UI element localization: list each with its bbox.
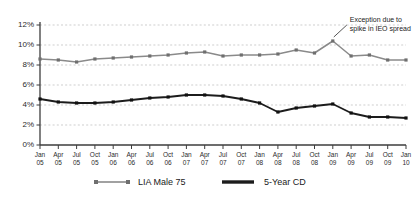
x-label-year: 09 bbox=[329, 159, 337, 166]
x-label-year: 07 bbox=[201, 159, 209, 166]
data-point-lia-male-75-18 bbox=[368, 53, 371, 56]
data-point-lia-male-75-8 bbox=[185, 51, 188, 54]
data-point-lia-male-75-16 bbox=[331, 39, 334, 42]
data-point-5-year-cd-12 bbox=[258, 101, 261, 104]
data-point-lia-male-75-9 bbox=[203, 50, 206, 53]
annotation-text-exception-note: Exception due tospike in IEO spread bbox=[350, 16, 411, 33]
x-label-year: 08 bbox=[293, 159, 301, 166]
x-axis-label-Jan-10: Jan10 bbox=[401, 151, 412, 166]
y-axis-label-0%: 0% bbox=[22, 140, 34, 149]
x-label-month: Jan bbox=[328, 151, 339, 158]
data-point-5-year-cd-3 bbox=[93, 101, 96, 104]
y-axis-label-12%: 12% bbox=[18, 20, 34, 29]
x-label-month: Jan bbox=[108, 151, 119, 158]
x-label-month: Apr bbox=[53, 151, 64, 159]
x-axis-label-Jul-06: Jul06 bbox=[146, 151, 155, 166]
annotation-line-1: spike in IEO spread bbox=[350, 25, 411, 33]
x-label-month: Jul bbox=[219, 151, 228, 158]
x-axis-label-Jan-06: Jan06 bbox=[108, 151, 119, 166]
data-point-lia-male-75-19 bbox=[386, 58, 389, 61]
data-point-lia-male-75-17 bbox=[350, 54, 353, 57]
x-label-month: Jul bbox=[292, 151, 301, 158]
data-point-5-year-cd-1 bbox=[57, 100, 60, 103]
data-point-lia-male-75-4 bbox=[112, 56, 115, 59]
x-label-month: Jan bbox=[181, 151, 192, 158]
data-point-5-year-cd-18 bbox=[368, 115, 371, 118]
x-axis-label-Oct-09: Oct09 bbox=[383, 151, 393, 166]
x-axis-label-Jul-05: Jul05 bbox=[72, 151, 81, 166]
x-label-month: Oct bbox=[309, 151, 319, 158]
data-point-lia-male-75-11 bbox=[240, 53, 243, 56]
x-label-month: Apr bbox=[346, 151, 357, 159]
x-label-month: Jul bbox=[146, 151, 155, 158]
data-point-5-year-cd-15 bbox=[313, 104, 316, 107]
annotation-line-0: Exception due to bbox=[350, 16, 402, 24]
x-label-year: 07 bbox=[238, 159, 246, 166]
data-point-5-year-cd-8 bbox=[185, 93, 188, 96]
legend-item-5-year-cd[interactable]: 5-Year CD bbox=[222, 177, 306, 187]
data-point-lia-male-75-2 bbox=[75, 60, 78, 63]
x-label-year: 09 bbox=[347, 159, 355, 166]
x-axis-label-Oct-07: Oct07 bbox=[236, 151, 246, 166]
x-label-month: Oct bbox=[383, 151, 393, 158]
x-label-year: 08 bbox=[311, 159, 319, 166]
x-label-month: Jul bbox=[365, 151, 374, 158]
x-label-year: 06 bbox=[146, 159, 154, 166]
data-point-lia-male-75-15 bbox=[313, 51, 316, 54]
legend-marker-lia-male-75-0 bbox=[94, 180, 98, 184]
y-axis-label-8%: 8% bbox=[22, 60, 34, 69]
x-label-month: Apr bbox=[273, 151, 284, 159]
data-point-5-year-cd-14 bbox=[295, 106, 298, 109]
x-label-year: 06 bbox=[164, 159, 172, 166]
x-label-year: 05 bbox=[55, 159, 63, 166]
data-point-5-year-cd-7 bbox=[167, 95, 170, 98]
x-axis-label-Oct-06: Oct06 bbox=[163, 151, 173, 166]
x-label-month: Apr bbox=[200, 151, 211, 159]
gridlines bbox=[40, 25, 406, 125]
x-axis-label-Apr-06: Apr06 bbox=[126, 151, 137, 166]
y-axis-labels: 0%2%4%6%8%10%12% bbox=[18, 20, 34, 149]
y-axis-label-4%: 4% bbox=[22, 100, 34, 109]
data-point-5-year-cd-17 bbox=[350, 111, 353, 114]
data-point-5-year-cd-13 bbox=[276, 110, 279, 113]
data-point-5-year-cd-11 bbox=[240, 97, 243, 100]
legend-item-lia-male-75[interactable]: LIA Male 75 bbox=[94, 177, 186, 187]
annotation-leader-line bbox=[334, 25, 347, 37]
y-axis-label-6%: 6% bbox=[22, 80, 34, 89]
data-point-lia-male-75-0 bbox=[38, 57, 41, 60]
x-axis-label-Jan-07: Jan07 bbox=[181, 151, 192, 166]
x-label-year: 09 bbox=[384, 159, 392, 166]
data-point-lia-male-75-14 bbox=[295, 48, 298, 51]
x-label-month: Jul bbox=[72, 151, 81, 158]
x-label-month: Jan bbox=[254, 151, 265, 158]
data-point-5-year-cd-16 bbox=[331, 102, 334, 105]
y-axis-label-2%: 2% bbox=[22, 120, 34, 129]
x-label-month: Jan bbox=[35, 151, 46, 158]
data-point-5-year-cd-20 bbox=[404, 116, 407, 119]
x-label-year: 06 bbox=[128, 159, 136, 166]
x-axis-label-Apr-07: Apr07 bbox=[200, 151, 211, 166]
data-point-5-year-cd-5 bbox=[130, 98, 133, 101]
x-axis-label-Jan-08: Jan08 bbox=[254, 151, 265, 166]
x-label-year: 05 bbox=[36, 159, 44, 166]
x-label-year: 07 bbox=[183, 159, 191, 166]
x-axis-label-Oct-05: Oct05 bbox=[90, 151, 100, 166]
x-label-month: Oct bbox=[163, 151, 173, 158]
data-point-lia-male-75-20 bbox=[404, 58, 407, 61]
annotation-layer: Exception due tospike in IEO spread bbox=[334, 16, 411, 37]
data-point-lia-male-75-10 bbox=[221, 54, 224, 57]
y-axis-label-10%: 10% bbox=[18, 40, 34, 49]
data-point-5-year-cd-2 bbox=[75, 101, 78, 104]
legend-label-5-year-cd: 5-Year CD bbox=[264, 177, 306, 187]
x-axis-label-Apr-08: Apr08 bbox=[273, 151, 284, 166]
x-axis-label-Apr-09: Apr09 bbox=[346, 151, 357, 166]
data-point-lia-male-75-5 bbox=[130, 55, 133, 58]
x-label-month: Oct bbox=[90, 151, 100, 158]
x-label-year: 08 bbox=[256, 159, 264, 166]
x-axis-label-Jul-08: Jul08 bbox=[292, 151, 301, 166]
x-label-month: Oct bbox=[236, 151, 246, 158]
data-point-5-year-cd-19 bbox=[386, 115, 389, 118]
x-axis-label-Apr-05: Apr05 bbox=[53, 151, 64, 166]
data-point-lia-male-75-7 bbox=[167, 53, 170, 56]
data-point-5-year-cd-4 bbox=[112, 100, 115, 103]
